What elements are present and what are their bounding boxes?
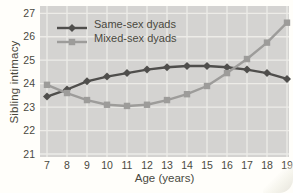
data-point-marker <box>204 83 210 89</box>
x-tick-label: 17 <box>241 159 253 171</box>
legend-swatch-mixed-sex <box>56 33 88 43</box>
y-axis-label: Sibling intimacy <box>8 37 20 127</box>
x-tick-label: 19 <box>281 159 293 171</box>
y-tick-label: 27 <box>23 7 35 19</box>
data-point-marker <box>244 56 250 62</box>
chart-legend: Same-sex dyads Mixed-sex dyads <box>56 17 177 45</box>
data-point-marker <box>184 91 190 97</box>
y-tick-label: 24 <box>23 77 35 89</box>
legend-label-same-sex: Same-sex dyads <box>94 18 176 31</box>
y-tick-label: 25 <box>23 54 35 66</box>
x-tick-label: 12 <box>141 159 153 171</box>
x-tick-label: 9 <box>84 159 90 171</box>
data-point-marker <box>164 97 170 103</box>
data-point-marker <box>64 90 70 96</box>
sibling-intimacy-figure: 2122232425262778910111213141516171819 Si… <box>0 0 293 193</box>
y-tick-label: 26 <box>23 30 35 42</box>
legend-line-sample <box>56 23 88 33</box>
legend-line-sample <box>56 37 88 47</box>
x-tick-label: 13 <box>161 159 173 171</box>
legend-label-mixed-sex: Mixed-sex dyads <box>94 32 177 45</box>
x-tick-label: 16 <box>221 159 233 171</box>
data-point-marker <box>84 97 90 103</box>
legend-swatch-same-sex <box>56 19 88 29</box>
x-tick-label: 10 <box>101 159 113 171</box>
x-tick-label: 18 <box>261 159 273 171</box>
x-axis-label: Age (years) <box>40 172 289 184</box>
x-tick-label: 7 <box>44 159 50 171</box>
data-point-marker <box>44 82 50 88</box>
data-point-marker <box>284 19 290 25</box>
legend-item-same-sex: Same-sex dyads <box>56 17 177 31</box>
data-point-marker <box>104 102 110 108</box>
x-tick-label: 14 <box>181 159 193 171</box>
data-point-marker <box>264 39 270 45</box>
data-point-marker <box>224 70 230 76</box>
y-tick-label: 23 <box>23 101 35 113</box>
y-tick-label: 21 <box>23 148 35 160</box>
y-tick-label: 22 <box>23 124 35 136</box>
x-tick-label: 15 <box>201 159 213 171</box>
data-point-marker <box>124 103 130 109</box>
legend-item-mixed-sex: Mixed-sex dyads <box>56 31 177 45</box>
data-point-marker <box>144 102 150 108</box>
x-tick-label: 11 <box>122 159 133 171</box>
x-tick-label: 8 <box>64 159 70 171</box>
